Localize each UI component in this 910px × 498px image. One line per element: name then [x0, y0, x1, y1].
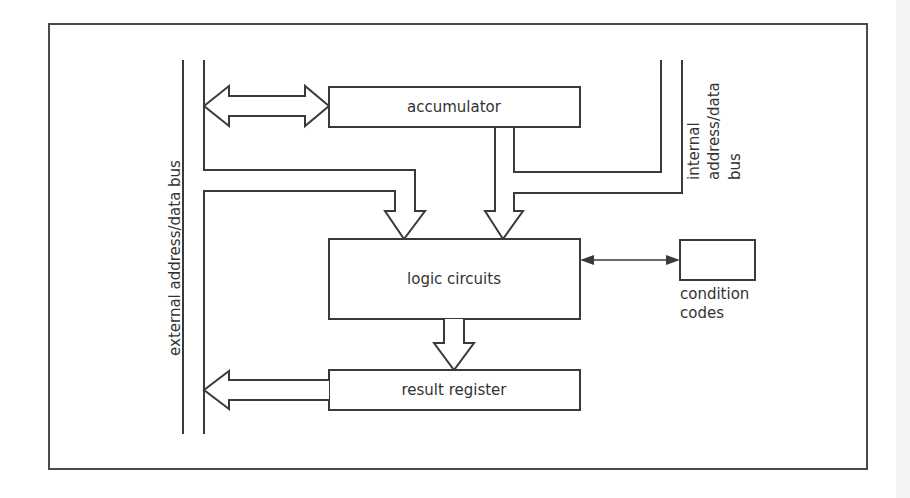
logic-to-result-arrow [434, 319, 474, 370]
alu-block-diagram: accumulator logic circuits result regist… [0, 0, 910, 498]
arrowhead-right-icon [666, 255, 680, 265]
logic-circuits-label: logic circuits [407, 270, 501, 288]
accumulator-label: accumulator [407, 98, 502, 116]
bus-accumulator-double-arrow [204, 86, 329, 126]
arrowhead-left-icon [580, 255, 594, 265]
result-to-external-arrow [204, 371, 329, 409]
internal-bus-label-line1: internal [685, 122, 703, 180]
condition-codes-block [680, 240, 755, 280]
result-register-label: result register [401, 381, 507, 399]
internal-bus-label-line2: address/data [705, 82, 723, 180]
internal-bus-label-line3: bus [726, 153, 744, 180]
condition-codes-label-line1: condition [680, 285, 749, 303]
external-bus-label: external address/data bus [166, 160, 184, 356]
condition-codes-label-line2: codes [680, 304, 724, 322]
